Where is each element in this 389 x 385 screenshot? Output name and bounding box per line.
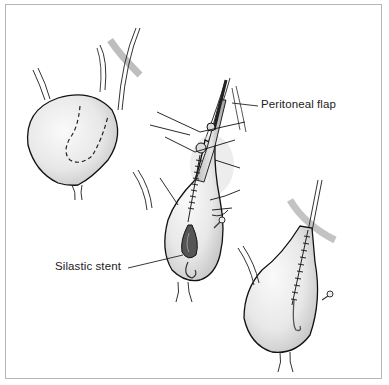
surgical-illustration	[0, 0, 389, 385]
panel-bladder-flap	[128, 78, 258, 302]
panel-bladder-after	[238, 180, 335, 372]
label-peritoneal-flap: Peritoneal flap	[261, 98, 336, 110]
panel-bladder-before	[28, 28, 140, 200]
label-silastic-stent: Silastic stent	[55, 260, 121, 272]
